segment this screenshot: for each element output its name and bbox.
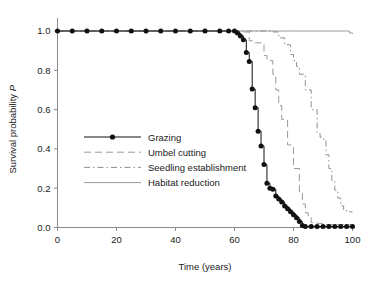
series-line-umbel-cutting: [58, 31, 353, 225]
y-tick-label: 0.2: [37, 183, 50, 194]
x-tick-label: 60: [229, 234, 240, 245]
legend-label-habitat-reduction: Habitat reduction: [148, 177, 220, 188]
data-point-marker: [158, 29, 163, 34]
data-point-marker: [303, 224, 308, 229]
data-point-marker: [85, 29, 90, 34]
y-tick-label: 0.4: [37, 143, 50, 154]
x-tick-label: 100: [345, 234, 361, 245]
data-point-marker: [338, 224, 343, 229]
legend-label-umbel-cutting: Umbel cutting: [148, 147, 206, 158]
y-tick-label: 1.0: [37, 25, 50, 36]
data-point-marker: [129, 29, 134, 34]
data-point-marker: [188, 29, 193, 34]
x-tick-label: 40: [170, 234, 181, 245]
y-axis-title-text: Survival probability: [7, 91, 18, 173]
data-point-marker: [99, 29, 104, 34]
y-tick-label: 0.6: [37, 104, 50, 115]
data-point-marker: [203, 29, 208, 34]
x-tick-label: 20: [111, 234, 122, 245]
data-point-marker: [226, 29, 231, 34]
data-point-marker: [244, 50, 249, 55]
y-tick-label: 0.0: [37, 222, 50, 233]
data-point-marker: [253, 105, 258, 110]
axes-group: [58, 18, 353, 228]
x-axis-ticks: 020406080100: [55, 228, 361, 245]
data-point-marker: [241, 37, 246, 42]
data-point-marker: [55, 29, 60, 34]
data-point-marker: [326, 224, 331, 229]
legend-swatch-marker: [110, 134, 115, 139]
data-point-marker: [321, 224, 326, 229]
y-axis-title: Survival probability P: [7, 84, 18, 173]
data-point-marker: [332, 224, 337, 229]
y-tick-label: 0.8: [37, 65, 50, 76]
data-point-marker: [144, 29, 149, 34]
legend-label-seedling-establishment: Seedling establishment: [148, 162, 247, 173]
data-point-marker: [270, 187, 275, 192]
data-point-marker: [256, 129, 261, 134]
legend-label-grazing: Grazing: [148, 132, 181, 143]
chart-canvas: 0.00.20.40.60.81.0020406080100Time (year…: [0, 0, 370, 284]
x-axis-title: Time (years): [179, 261, 232, 272]
data-point-marker: [264, 181, 269, 186]
series-line-grazing: [58, 31, 353, 227]
data-point-marker: [315, 224, 320, 229]
data-point-marker: [262, 162, 267, 167]
survival-probability-chart: 0.00.20.40.60.81.0020406080100Time (year…: [0, 0, 370, 284]
data-point-marker: [250, 86, 255, 91]
data-point-marker: [173, 29, 178, 34]
series-markers-grazing: [55, 29, 355, 230]
x-tick-label: 80: [288, 234, 299, 245]
data-point-marker: [350, 224, 355, 229]
data-point-marker: [259, 143, 264, 148]
chart-legend: GrazingUmbel cuttingSeedling establishme…: [84, 132, 247, 189]
data-point-marker: [247, 59, 252, 64]
data-point-marker: [70, 29, 75, 34]
data-point-marker: [309, 224, 314, 229]
data-point-marker: [114, 29, 119, 34]
series-group: [55, 29, 355, 230]
y-axis-ticks: 0.00.20.40.60.81.0: [37, 25, 57, 233]
data-point-marker: [217, 29, 222, 34]
x-tick-label: 0: [55, 234, 60, 245]
data-point-marker: [344, 224, 349, 229]
y-axis-title-symbol: P: [7, 84, 18, 91]
